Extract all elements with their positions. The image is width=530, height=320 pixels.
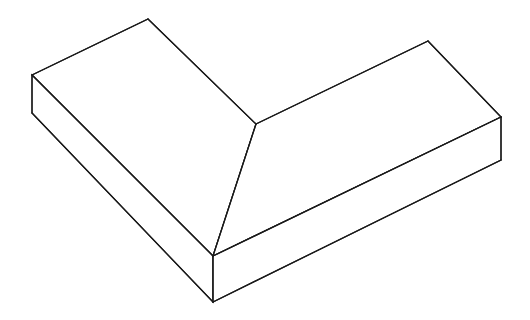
drawing-canvas [0,0,530,320]
isometric-block-figure [0,0,530,320]
faces-group [32,19,501,302]
